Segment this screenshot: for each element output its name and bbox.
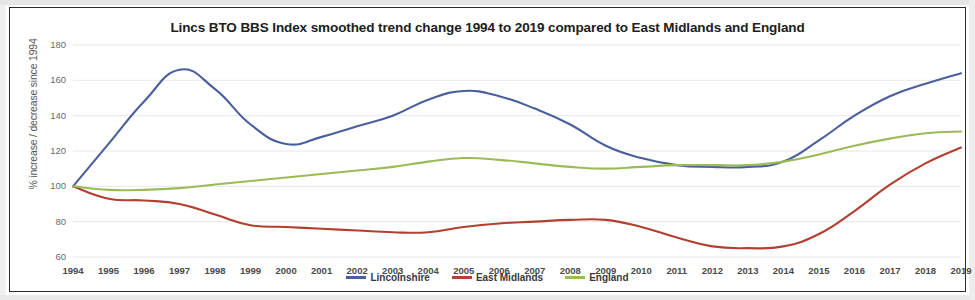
page-top-edge (0, 0, 975, 5)
chart-legend: LincolnshireEast MidlandsEngland (10, 272, 965, 283)
legend-item-england[interactable]: England (565, 272, 628, 283)
legend-swatch-icon (565, 276, 585, 279)
plot-area (10, 8, 967, 293)
gridlines (73, 45, 961, 257)
legend-item-lincolnshire[interactable]: Lincolnshire (346, 272, 429, 283)
page-left-edge (0, 0, 6, 300)
page-bottom-edge (0, 295, 975, 300)
legend-item-label: Lincolnshire (370, 272, 429, 283)
legend-item-label: England (589, 272, 628, 283)
page-right-edge (969, 0, 975, 300)
legend-swatch-icon (346, 276, 366, 279)
chart-container: Lincs BTO BBS Index smoothed trend chang… (9, 7, 966, 292)
series-line-england (73, 132, 961, 191)
legend-item-east-midlands[interactable]: East Midlands (452, 272, 543, 283)
legend-swatch-icon (452, 276, 472, 279)
series-line-east-midlands (73, 147, 961, 248)
legend-item-label: East Midlands (476, 272, 543, 283)
series-line-lincolnshire (73, 69, 961, 186)
